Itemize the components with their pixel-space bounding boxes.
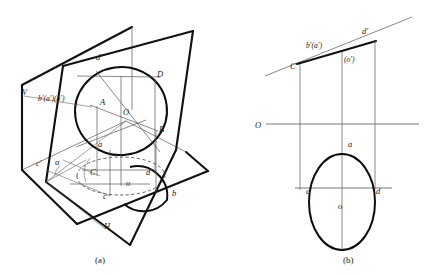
caption-panel-b: (b) (343, 255, 354, 265)
label-point-o-lower: o (126, 178, 130, 188)
label-b-a-prime: b′(a′) (306, 41, 322, 50)
caption-panel-a: (a) (95, 255, 105, 265)
labels-layer: V b′(a′)(o′) d′ D A O B a c′ α C o d c b… (0, 0, 429, 276)
label-v-plane: V (22, 87, 29, 97)
label-point-o-b: o (338, 201, 342, 211)
label-point-c-b: c (306, 186, 310, 196)
label-d-prime-b: d′ (362, 26, 368, 36)
label-point-O: O (123, 107, 129, 117)
label-point-A: A (99, 97, 106, 107)
label-c-prime-a: c′ (36, 158, 42, 168)
label-point-b-lower: b (172, 188, 176, 198)
label-d-prime-a: d′ (96, 52, 102, 62)
label-axis-origin: O (255, 120, 261, 130)
label-angle-alpha: α (55, 157, 60, 167)
label-point-a-lower: a (98, 139, 102, 149)
label-point-d-lower: d (146, 167, 151, 177)
label-b-a-o-prime: b′(a′)(o′) (38, 94, 65, 103)
label-point-a-b: a (348, 139, 352, 149)
label-point-d-b: d (376, 186, 381, 196)
technical-drawing-figure: V b′(a′)(o′) d′ D A O B a c′ α C o d c b… (0, 0, 429, 276)
label-point-D: D (156, 69, 164, 79)
label-point-B: B (159, 124, 164, 134)
label-point-C: C (90, 167, 96, 177)
label-h-plane: H (103, 221, 111, 231)
label-C-prime: C′ (290, 61, 298, 71)
label-o-prime: (o′) (344, 55, 355, 64)
label-point-c-lower: c (103, 191, 107, 201)
